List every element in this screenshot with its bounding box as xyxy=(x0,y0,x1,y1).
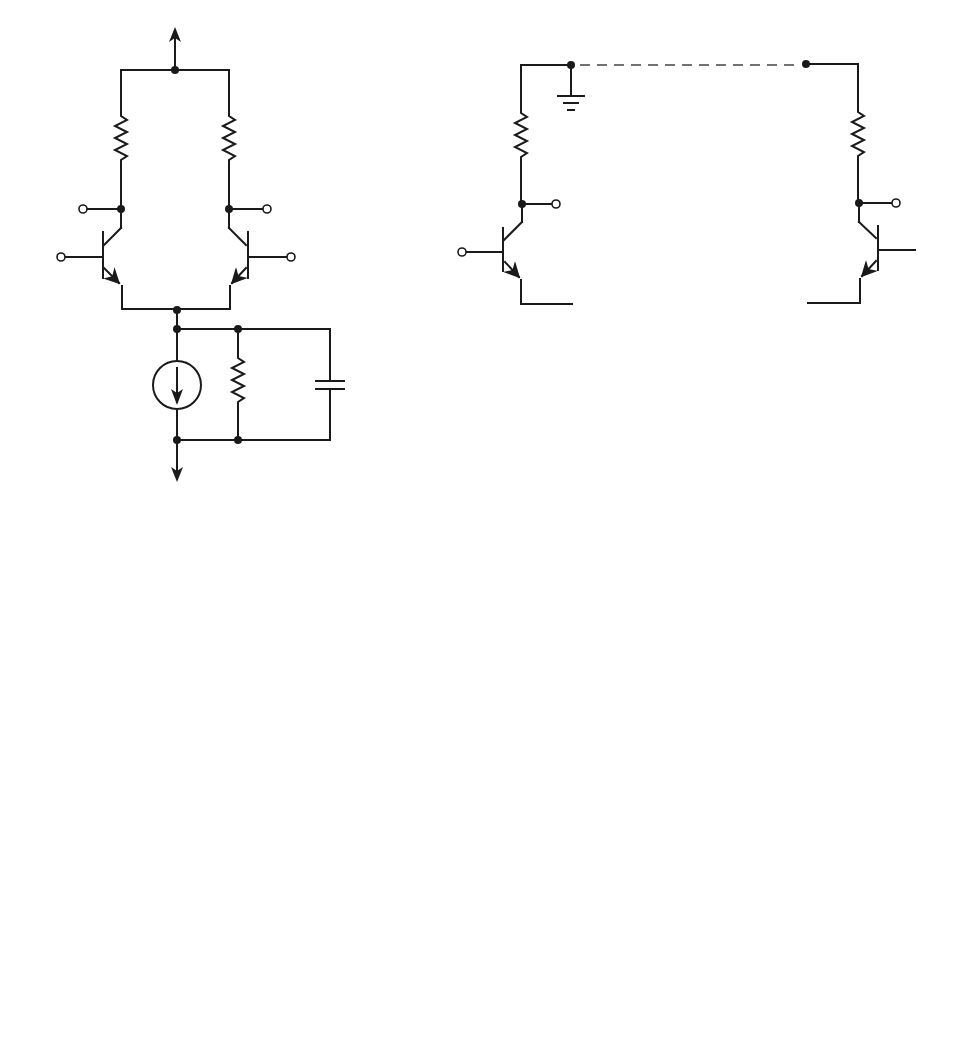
capacitor-cout-icon xyxy=(177,370,344,440)
terminal-vc-left xyxy=(57,253,65,261)
panel-a xyxy=(0,0,344,482)
terminal-vo-left xyxy=(79,205,87,213)
terminal-vo-left xyxy=(552,200,560,208)
top-rail xyxy=(121,70,229,112)
resistor-rout xyxy=(232,329,244,440)
circuit-figure xyxy=(0,0,975,1046)
terminal-vo-right xyxy=(263,205,271,213)
panel-b xyxy=(458,60,915,304)
terminal-vc-left xyxy=(458,248,466,256)
resistor-rc-right xyxy=(852,108,864,202)
npn-transistor-left-icon xyxy=(466,204,572,304)
npn-transistor-right-icon xyxy=(808,203,890,303)
resistor-rc-right xyxy=(223,112,235,209)
npn-transistor-right-icon xyxy=(175,209,287,309)
resistor-rc-left xyxy=(515,105,527,204)
ground-icon xyxy=(558,96,584,110)
terminal-vc-right xyxy=(287,253,295,261)
resistor-rc-left xyxy=(115,112,127,209)
terminal-vo-right xyxy=(892,199,900,207)
npn-transistor-left-icon xyxy=(64,209,175,309)
